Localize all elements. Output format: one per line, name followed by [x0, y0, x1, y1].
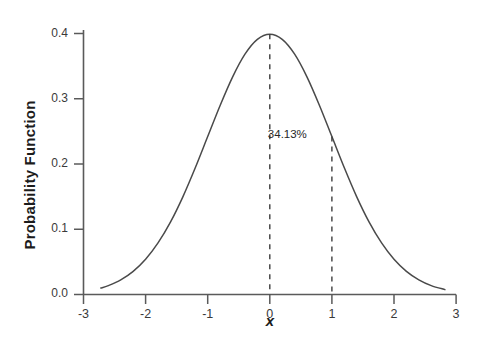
x-tick-label--1: -1 — [188, 307, 228, 321]
x-axis-ticks — [84, 295, 457, 305]
y-tick-label-0.0: 0.0 — [26, 286, 68, 300]
y-tick-label-0.3: 0.3 — [26, 91, 68, 105]
y-tick-label-0.1: 0.1 — [26, 221, 68, 235]
x-tick-label--2: -2 — [126, 307, 166, 321]
y-tick-label-0.4: 0.4 — [26, 26, 68, 40]
plot-area — [0, 0, 490, 343]
x-tick-label-1: 1 — [312, 307, 352, 321]
x-tick-label-2: 2 — [374, 307, 414, 321]
x-tick-label--3: -3 — [64, 307, 104, 321]
x-tick-label-0: 0 — [250, 307, 290, 321]
y-axis-title: Probability Function — [14, 30, 44, 320]
area-percentage-annotation: 34.13% — [268, 128, 307, 140]
x-tick-label-3: 3 — [436, 307, 476, 321]
normal-distribution-curve — [101, 34, 445, 289]
y-tick-label-0.2: 0.2 — [26, 156, 68, 170]
y-axis-ticks — [74, 34, 84, 295]
probability-function-chart: Probability Function x 0.4 0.3 0.2 0.1 0… — [0, 0, 490, 343]
